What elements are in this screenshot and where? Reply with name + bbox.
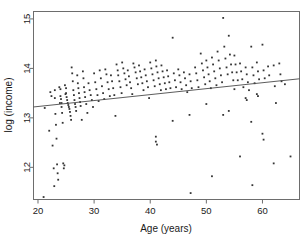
x-tick-label: 50	[201, 205, 212, 216]
data-point	[268, 74, 270, 76]
data-point	[75, 110, 77, 112]
data-point	[128, 75, 130, 77]
data-point	[217, 51, 219, 53]
data-point	[214, 77, 216, 79]
data-point	[158, 77, 160, 79]
data-point	[104, 68, 106, 70]
data-point	[195, 72, 197, 74]
data-point	[218, 60, 220, 62]
data-point	[239, 156, 241, 158]
data-point	[95, 88, 97, 90]
data-point	[180, 81, 182, 83]
data-point	[86, 112, 88, 114]
data-point	[228, 110, 230, 112]
data-point	[164, 82, 166, 84]
data-point	[257, 70, 259, 72]
data-point	[228, 35, 230, 37]
data-point	[230, 64, 232, 66]
data-point	[223, 46, 225, 48]
data-point	[49, 91, 51, 93]
data-point	[73, 94, 75, 96]
data-point	[99, 69, 101, 71]
y-tick-label: 14	[21, 63, 32, 74]
data-point	[152, 73, 154, 75]
data-points-layer	[43, 17, 292, 198]
data-point	[57, 179, 59, 181]
data-point	[129, 81, 131, 83]
data-point	[84, 91, 86, 93]
y-axis-title: log (income)	[3, 77, 14, 132]
data-point	[166, 69, 168, 71]
data-point	[181, 88, 183, 90]
data-point	[207, 67, 209, 69]
data-point	[93, 72, 95, 74]
data-point	[168, 81, 170, 83]
data-point	[125, 78, 127, 80]
data-point	[203, 76, 205, 78]
data-point	[205, 60, 207, 62]
data-point	[72, 80, 74, 82]
data-point	[70, 115, 72, 117]
data-point	[53, 185, 55, 187]
data-point	[208, 73, 210, 75]
data-point	[262, 44, 264, 46]
data-point	[211, 57, 213, 59]
data-point	[183, 71, 185, 73]
data-point	[154, 85, 156, 87]
scatter-plot-figure: 2030405060 12131415 Age (years) log (inc…	[0, 0, 308, 240]
data-point	[274, 85, 276, 87]
data-point	[88, 82, 90, 84]
data-point	[273, 162, 275, 164]
data-point	[246, 99, 248, 101]
data-point	[150, 67, 152, 69]
data-point	[212, 64, 214, 66]
data-point	[81, 119, 83, 121]
data-point	[170, 87, 172, 89]
data-point	[66, 99, 68, 101]
data-point	[247, 81, 249, 83]
data-point	[54, 89, 56, 91]
data-point	[83, 86, 85, 88]
regression-line	[34, 79, 300, 107]
data-point	[155, 136, 157, 138]
data-point	[79, 97, 81, 99]
data-point	[89, 89, 91, 91]
data-point	[53, 167, 55, 169]
data-point	[155, 60, 157, 62]
data-point	[213, 70, 215, 72]
data-point	[204, 83, 206, 85]
data-point	[225, 58, 227, 60]
data-point	[185, 84, 187, 86]
data-point	[184, 77, 186, 79]
data-point	[219, 67, 221, 69]
data-point	[90, 94, 92, 96]
data-point	[146, 80, 148, 82]
data-point	[65, 92, 67, 94]
data-point	[196, 79, 198, 81]
data-point	[48, 130, 50, 132]
data-point	[143, 89, 145, 91]
data-point	[116, 64, 118, 66]
data-point	[257, 95, 259, 97]
data-point	[186, 91, 188, 93]
data-point	[148, 97, 150, 99]
data-point	[44, 107, 46, 109]
data-point	[189, 114, 191, 116]
data-point	[65, 87, 67, 89]
y-tick-label: 12	[21, 162, 32, 173]
data-point	[68, 106, 70, 108]
data-point	[112, 87, 114, 89]
data-point	[250, 46, 252, 48]
data-point	[157, 71, 159, 73]
data-point	[163, 76, 165, 78]
data-point	[179, 74, 181, 76]
data-point	[229, 54, 231, 56]
data-point	[153, 79, 155, 81]
data-point	[67, 104, 69, 106]
data-point	[101, 85, 103, 87]
data-point	[121, 92, 123, 94]
data-point	[175, 86, 177, 88]
data-point	[54, 97, 56, 99]
data-point	[139, 70, 141, 72]
data-point	[126, 84, 128, 86]
